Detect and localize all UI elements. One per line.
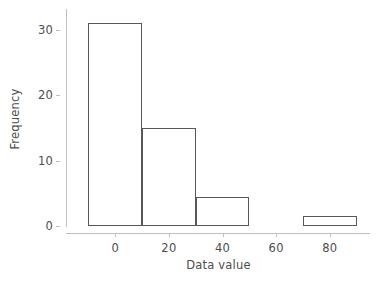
y-axis-tick-label: 0	[45, 219, 53, 233]
x-axis-tick-label: 40	[203, 241, 243, 255]
y-axis-tick-label: 20	[38, 88, 53, 102]
y-axis-tick-mark	[56, 95, 60, 96]
y-axis-label: Frequency	[8, 69, 22, 169]
histogram-bar	[142, 128, 196, 226]
y-axis-tick: 30	[0, 23, 60, 37]
x-axis-spine	[66, 233, 370, 234]
histogram-bar	[303, 216, 357, 226]
x-axis-tick-label: 20	[149, 241, 189, 255]
y-axis-tick-label: 10	[38, 154, 53, 168]
y-axis-tick-mark	[56, 161, 60, 162]
x-axis-tick-mark	[223, 233, 224, 237]
x-axis-tick-label: 0	[95, 241, 135, 255]
y-axis-tick-mark	[56, 30, 60, 31]
x-axis-tick-mark	[169, 233, 170, 237]
plot-area	[67, 10, 370, 226]
y-axis-tick-mark	[56, 226, 60, 227]
y-axis-spine	[66, 9, 67, 227]
x-axis-tick-label: 80	[310, 241, 350, 255]
x-axis-tick-mark	[330, 233, 331, 237]
histogram-bar	[88, 23, 142, 226]
x-axis-tick-mark	[276, 233, 277, 237]
histogram-figure: 0102030 020406080 Data value Frequency	[0, 0, 386, 285]
y-axis-tick-label: 30	[38, 23, 53, 37]
x-axis-label: Data value	[67, 258, 370, 272]
x-axis-tick-mark	[115, 233, 116, 237]
y-axis-tick: 0	[0, 219, 60, 233]
histogram-bar	[196, 197, 250, 226]
x-axis-tick-label: 60	[256, 241, 296, 255]
